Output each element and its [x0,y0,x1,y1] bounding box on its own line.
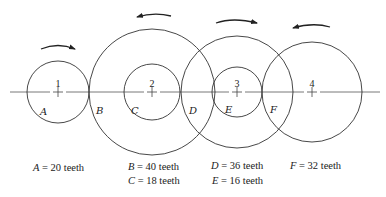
caption-c: C = 18 teeth [128,175,180,186]
caption-d: D = 36 teeth [210,160,264,171]
caption-f-text: = 32 teeth [296,160,341,171]
caption-e: E = 16 teeth [211,175,264,186]
shaft-number-2: 2 [150,78,155,89]
rotation-arrow-counterclockwise-gear-2 [137,14,171,17]
shaft-number-4: 4 [310,78,315,89]
wheel-label-c: C [131,105,139,116]
wheel-label-a: A [39,106,47,117]
rotation-arrow-counterclockwise-gear-4 [293,25,330,28]
wheel-label-f: F [269,104,278,115]
caption-f: F = 32 teeth [289,160,342,171]
wheel-label-d: D [188,105,197,116]
caption-c-text: = 18 teeth [135,175,180,186]
caption-a-text: = 20 teeth [39,162,84,173]
shaft-number-3: 3 [235,78,240,89]
gear-train-diagram: 1 2 3 4 A B C D E F A = 20 teeth B = 40 … [0,0,386,197]
wheel-label-e: E [224,104,233,115]
caption-d-text: = 36 teeth [219,160,264,171]
caption-b: B = 40 teeth [128,161,180,172]
wheel-label-b: B [95,105,103,116]
caption-e-text: = 16 teeth [218,175,263,186]
rotation-arrow-clockwise-gear-3 [216,20,257,23]
caption-a: A = 20 teeth [32,162,85,173]
rotation-arrow-clockwise-gear-1 [41,46,75,50]
shaft-number-1: 1 [56,78,61,89]
caption-b-text: = 40 teeth [134,161,179,172]
